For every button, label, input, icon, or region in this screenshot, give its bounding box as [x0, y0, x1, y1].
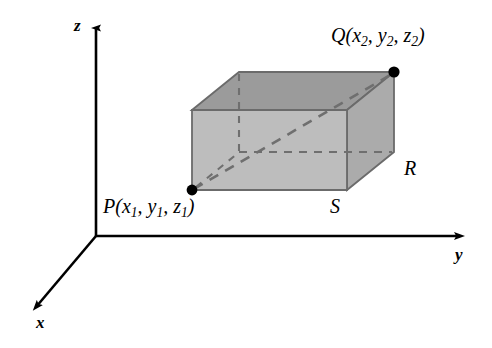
figure-canvas: [0, 0, 492, 348]
point-p-sub-x: 1: [131, 205, 138, 220]
point-p-dot: [187, 185, 198, 196]
point-q-sub-x: 2: [361, 34, 368, 49]
point-q-coord-y: y: [378, 24, 387, 46]
point-p-label: P(x1, y1, z1): [103, 196, 195, 216]
x-axis-label: x: [36, 314, 45, 331]
y-axis-label: y: [455, 246, 463, 263]
point-q-label: Q(x2, y2, z2): [331, 25, 425, 45]
point-p-sub-y: 1: [156, 205, 163, 220]
point-p-name: P: [103, 195, 115, 217]
vertex-r-label: R: [404, 158, 416, 178]
point-p-coord-x: x: [122, 195, 131, 217]
point-p-sub-z: 1: [181, 205, 188, 220]
point-q-dot: [388, 66, 399, 77]
point-q-coord-x: x: [352, 24, 361, 46]
point-q-sub-y: 2: [387, 34, 394, 49]
vertex-s-label: S: [330, 196, 340, 216]
z-axis-label: z: [74, 17, 81, 34]
point-q-name: Q: [331, 24, 345, 46]
point-q-sub-z: 2: [411, 34, 418, 49]
point-p-coord-z: z: [173, 195, 181, 217]
x-axis-line: [36, 236, 96, 307]
distance-formula-3d-figure: z y x P(x1, y1, z1) Q(x2, y2, z2) R S: [0, 0, 492, 348]
